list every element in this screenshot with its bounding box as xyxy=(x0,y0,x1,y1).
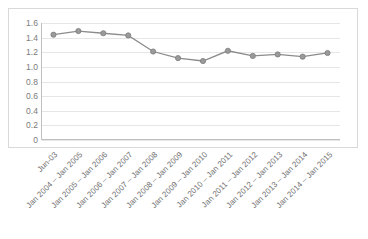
y-axis-tick-label: 1.2 xyxy=(26,47,38,57)
data-point-marker xyxy=(300,54,305,59)
data-point-marker xyxy=(175,56,180,61)
y-axis-tick-label: 0.6 xyxy=(26,91,38,101)
gridline xyxy=(42,140,340,141)
series-line-layer xyxy=(41,23,340,140)
y-axis-tick-label: 0.8 xyxy=(26,77,38,87)
data-point-marker xyxy=(76,28,81,33)
y-axis-tick-labels: 1.61.41.21.00.80.60.40.20 xyxy=(8,23,38,140)
y-axis-tick-label: 0.2 xyxy=(26,120,38,130)
y-axis-tick-label: 1.6 xyxy=(26,18,38,28)
line-chart: 1.61.41.21.00.80.60.40.20 Jun-03Jan 2004… xyxy=(0,0,368,239)
data-point-marker xyxy=(225,48,230,53)
series-line xyxy=(53,31,327,61)
y-axis-tick-label: 0.4 xyxy=(26,106,38,116)
y-axis-tick-label: 1.4 xyxy=(26,33,38,43)
data-point-marker xyxy=(126,33,131,38)
data-point-marker xyxy=(250,53,255,58)
data-point-marker xyxy=(325,50,330,55)
x-axis-tick-labels: Jun-03Jan 2004 – Jan 2005Jan 2005 – Jan … xyxy=(41,148,340,236)
data-point-marker xyxy=(200,58,205,63)
data-point-marker xyxy=(275,52,280,57)
data-point-marker xyxy=(101,31,106,36)
y-axis-tick-label: 0 xyxy=(33,135,38,145)
data-point-marker xyxy=(51,32,56,37)
data-point-marker xyxy=(151,49,156,54)
y-axis-tick-label: 1.0 xyxy=(26,62,38,72)
